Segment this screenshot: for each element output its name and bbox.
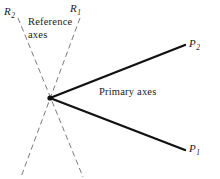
r2-subscript: 2 [11,11,15,20]
primary-axis-p1-line [50,98,185,150]
primary-axis-p1-label: P1 [189,143,199,154]
r1-subscript: 1 [77,8,81,17]
p1-subscript: 1 [196,148,200,157]
axes-diagram-figure: R2 R1 P2 P1 Reference axes Primary axes [0,0,220,179]
reference-axes-caption-line1: Reference [28,15,72,28]
p2-subscript: 2 [196,43,200,52]
r1-base: R [70,2,77,14]
primary-axes-caption: Primary axes [99,85,157,98]
reference-axis-r2-label: R2 [4,6,14,17]
reference-axes-caption: Reference axes [28,15,72,41]
reference-axis-r1-label: R1 [70,3,80,14]
r2-base: R [4,5,11,17]
origin-vertex-marker [47,95,52,100]
primary-axis-p2-label: P2 [189,38,199,49]
p2-base: P [189,37,196,49]
p1-base: P [189,142,196,154]
reference-axes-caption-line2: axes [28,28,72,41]
